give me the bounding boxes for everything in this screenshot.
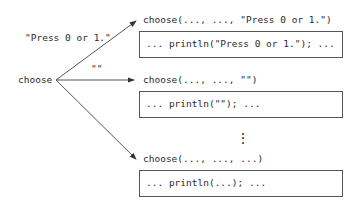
edge-label-2: "" (91, 63, 102, 75)
branch-3-body: ... println(...); ... (146, 177, 266, 189)
vertical-ellipsis: ⋮ (236, 130, 250, 146)
branch-2-body: ... println(""); ... (146, 98, 260, 110)
arrow-to-branch-3 (56, 80, 136, 159)
branch-1-call: choose(..., ..., "Press 0 or 1.") (143, 14, 332, 26)
branch-3-call: choose(..., ..., ...) (143, 153, 263, 165)
branch-2-body-box: ... println(""); ... (139, 91, 343, 118)
branch-1-body-box: ... println("Press 0 or 1."); ... (139, 31, 343, 58)
branch-3-body-box: ... println(...); ... (139, 170, 343, 197)
edge-label-1: "Press 0 or 1." (25, 32, 111, 44)
branch-2-call: choose(..., ..., "") (143, 74, 257, 86)
root-node-label: choose (18, 74, 52, 86)
branch-1-body: ... println("Press 0 or 1."); ... (146, 38, 335, 50)
